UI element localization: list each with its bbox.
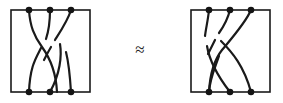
right-strand-a-upper (205, 10, 209, 36)
right-tangle-diagram (191, 7, 270, 96)
right-top-node-3 (248, 7, 255, 14)
left-strand-b-upper (46, 10, 50, 39)
left-bottom-node-1 (26, 89, 33, 96)
left-top-node-3 (68, 7, 75, 14)
left-strand-c-lower (66, 52, 71, 92)
tangle-equivalence-figure: ≈ (0, 0, 283, 103)
figure-canvas: ≈ (0, 0, 283, 103)
right-strand-b-mid (208, 40, 215, 54)
left-strand-c-upper (55, 10, 71, 40)
right-bottom-node-3 (248, 89, 255, 96)
left-strand-a (29, 10, 57, 92)
right-bottom-node-2 (227, 89, 234, 96)
right-bottom-node-1 (206, 89, 213, 96)
right-top-node-1 (206, 7, 213, 14)
left-strand-b-lower (29, 48, 41, 92)
approximately-equal-symbol: ≈ (135, 40, 144, 59)
left-top-node-1 (26, 7, 33, 14)
left-bottom-node-3 (68, 89, 75, 96)
left-top-node-2 (47, 7, 54, 14)
right-top-node-2 (227, 7, 234, 14)
left-bottom-node-2 (47, 89, 54, 96)
left-tangle-diagram (11, 7, 90, 96)
right-strand-b-upper (219, 10, 230, 33)
